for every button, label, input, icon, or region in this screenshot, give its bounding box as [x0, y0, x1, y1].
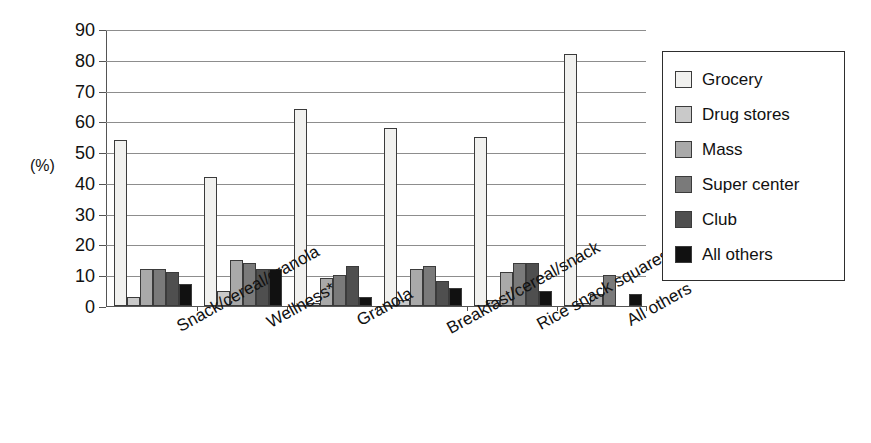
y-tick-label: 60 [75, 113, 95, 131]
bar[interactable] [590, 294, 603, 306]
bar[interactable] [294, 109, 307, 306]
y-tick-mark [99, 92, 106, 93]
bar-group [377, 30, 467, 306]
y-tick-label: 90 [75, 21, 95, 39]
y-tick-label: 0 [85, 298, 95, 316]
bar[interactable] [127, 297, 140, 306]
y-tick-label: 40 [75, 175, 95, 193]
legend-item[interactable]: Grocery [675, 62, 844, 97]
bar[interactable] [153, 269, 166, 306]
x-axis-line [106, 306, 646, 307]
y-tick-label: 30 [75, 206, 95, 224]
bar[interactable] [269, 269, 282, 306]
bar[interactable] [217, 291, 230, 306]
x-axis-tick-mark [197, 306, 198, 311]
bar[interactable] [359, 297, 372, 306]
y-tick-mark [99, 215, 106, 216]
bar[interactable] [423, 266, 436, 306]
bar[interactable] [629, 294, 642, 306]
legend-item[interactable]: Super center [675, 167, 844, 202]
chart-legend: GroceryDrug storesMassSuper centerClubAl… [662, 51, 845, 281]
bar[interactable] [474, 137, 487, 306]
legend-item-label: All others [702, 246, 773, 263]
chart-root: (%) 9080706050403020100 Snack/cereal/gra… [0, 0, 871, 443]
bar-group [557, 30, 647, 306]
legend-swatch-icon [675, 141, 692, 158]
bar[interactable] [397, 300, 410, 306]
bar-group [107, 30, 197, 306]
bar[interactable] [526, 263, 539, 306]
legend-swatch-icon [675, 71, 692, 88]
bar[interactable] [307, 303, 320, 306]
legend-swatch-icon [675, 106, 692, 123]
bar[interactable] [539, 291, 552, 306]
legend-item-label: Club [702, 211, 737, 228]
bar-group [287, 30, 377, 306]
bar[interactable] [204, 177, 217, 306]
legend-item-label: Mass [702, 141, 743, 158]
bar[interactable] [114, 140, 127, 306]
y-tick-label: 10 [75, 267, 95, 285]
plot-area: 9080706050403020100 [106, 30, 646, 307]
bar-groups [107, 30, 646, 306]
bar[interactable] [230, 260, 243, 306]
legend-swatch-icon [675, 176, 692, 193]
bar[interactable] [603, 275, 616, 306]
legend-item-label: Drug stores [702, 106, 790, 123]
y-tick-mark [99, 245, 106, 246]
legend-item[interactable]: Club [675, 202, 844, 237]
y-tick-mark [99, 276, 106, 277]
x-axis-tick-mark [557, 306, 558, 311]
bar[interactable] [577, 303, 590, 306]
y-tick-label: 80 [75, 52, 95, 70]
legend-item-label: Grocery [702, 71, 762, 88]
bar[interactable] [436, 281, 449, 306]
bar[interactable] [449, 288, 462, 306]
y-tick-mark [99, 153, 106, 154]
bar[interactable] [333, 275, 346, 306]
legend-swatch-icon [675, 246, 692, 263]
legend-item[interactable]: Mass [675, 132, 844, 167]
legend-item[interactable]: All others [675, 237, 844, 272]
y-tick-mark [99, 307, 106, 308]
bar[interactable] [384, 128, 397, 307]
x-axis-tick-mark [646, 306, 647, 311]
bar-group [197, 30, 287, 306]
y-tick-label: 70 [75, 83, 95, 101]
bar[interactable] [243, 263, 256, 306]
bar[interactable] [179, 284, 192, 306]
bar[interactable] [487, 300, 500, 306]
y-tick-mark [99, 61, 106, 62]
legend-swatch-icon [675, 211, 692, 228]
y-tick-label: 50 [75, 144, 95, 162]
bar[interactable] [320, 278, 333, 306]
bar[interactable] [564, 54, 577, 306]
bar[interactable] [500, 272, 513, 306]
y-tick-label: 20 [75, 236, 95, 254]
x-axis-tick-mark [467, 306, 468, 311]
y-tick-mark [99, 184, 106, 185]
bar[interactable] [166, 272, 179, 306]
bar[interactable] [140, 269, 153, 306]
x-axis-tick-mark [287, 306, 288, 311]
y-axis-unit-label: (%) [30, 157, 55, 175]
legend-item-label: Super center [702, 176, 799, 193]
bar-group [467, 30, 557, 306]
y-tick-mark [99, 30, 106, 31]
bar[interactable] [410, 269, 423, 306]
legend-item[interactable]: Drug stores [675, 97, 844, 132]
y-tick-mark [99, 122, 106, 123]
x-axis-tick-mark [377, 306, 378, 311]
bar[interactable] [346, 266, 359, 306]
bar[interactable] [513, 263, 526, 306]
bar[interactable] [256, 269, 269, 306]
